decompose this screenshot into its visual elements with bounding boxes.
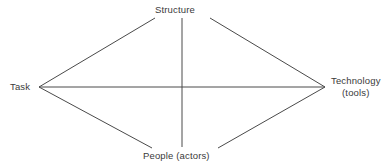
diagram-canvas: Structure Task Technology (tools) People… [0, 0, 388, 167]
edge-people-technology [218, 87, 325, 148]
node-technology-subtext: (tools) [331, 87, 381, 99]
edge-task-people [39, 87, 152, 148]
node-structure-text: Structure [155, 4, 195, 15]
node-label-structure: Structure [155, 4, 195, 16]
node-technology-text: Technology [331, 75, 381, 86]
diagram-lines [0, 0, 388, 167]
node-label-technology: Technology (tools) [331, 75, 381, 98]
node-label-task: Task [10, 81, 30, 93]
edge-structure-technology [210, 18, 325, 87]
node-people-text: People (actors) [143, 150, 210, 161]
node-label-people: People (actors) [143, 150, 210, 162]
edge-task-structure [39, 18, 155, 87]
node-task-text: Task [10, 81, 30, 92]
